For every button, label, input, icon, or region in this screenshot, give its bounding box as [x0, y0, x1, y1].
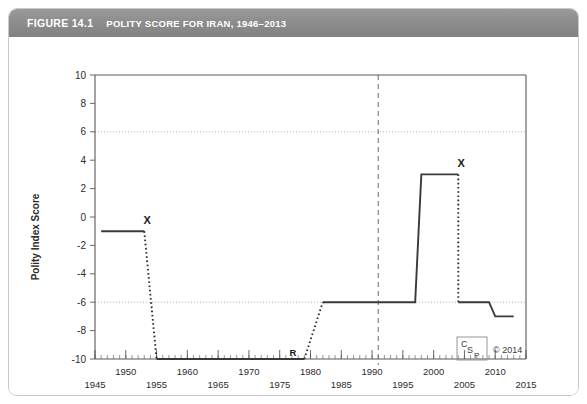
x-tick-label-2015: 2015 [515, 379, 536, 390]
x-tick-label-2010: 2010 [485, 366, 506, 377]
series-segment-4 [323, 174, 458, 302]
x-axis-tick-labels: 1945195019551960196519701975198019851990… [84, 366, 536, 390]
chart-axes [95, 75, 526, 359]
y-tick-label-2: 2 [80, 183, 86, 194]
y-tick-label-0: 0 [80, 212, 86, 223]
series-segment-1 [144, 231, 156, 359]
x-tick-label-2005: 2005 [454, 379, 475, 390]
y-tick-label-4: 4 [80, 155, 86, 166]
y-axis-title: Polity Index Score [30, 193, 41, 280]
figure-header-text: FIGURE 14.1 POLITY SCORE FOR IRAN, 1946–… [27, 9, 286, 37]
x-tick-label-1980: 1980 [300, 366, 321, 377]
figure-card: FIGURE 14.1 POLITY SCORE FOR IRAN, 1946–… [8, 8, 579, 396]
copyright-text: © 2014 [493, 345, 522, 355]
x-tick-label-1965: 1965 [208, 379, 229, 390]
polity-score-line-chart: 1086420-2-4-6-8-10 194519501955196019651… [9, 37, 579, 396]
csp-credit: C S P © 2014 [457, 337, 522, 360]
figure-header-bar: FIGURE 14.1 POLITY SCORE FOR IRAN, 1946–… [9, 9, 579, 37]
x-tick-label-1945: 1945 [84, 379, 105, 390]
y-tick-label--10: -10 [72, 354, 87, 365]
x-tick-label-1950: 1950 [115, 366, 136, 377]
x-tick-label-1985: 1985 [331, 379, 352, 390]
y-tick-label--2: -2 [77, 240, 86, 251]
x-tick-label-1990: 1990 [362, 366, 383, 377]
annotation-x-1953: X [144, 214, 152, 226]
chart-plot-area: 1086420-2-4-6-8-10 194519501955196019651… [9, 37, 579, 396]
series-segment-3 [304, 302, 322, 359]
y-tick-label-8: 8 [80, 98, 86, 109]
polity-series-line [101, 174, 514, 359]
y-tick-label--8: -8 [77, 325, 86, 336]
axis-major-ticks [90, 75, 526, 359]
annotation-r-1979: R [289, 347, 296, 358]
figure-number: FIGURE 14.1 [27, 17, 93, 29]
y-axis-tick-labels: 1086420-2-4-6-8-10 [72, 70, 87, 365]
csp-logo-p: P [474, 351, 479, 360]
series-segment-6 [458, 302, 513, 316]
x-tick-label-1975: 1975 [269, 379, 290, 390]
y-tick-label-6: 6 [80, 126, 86, 137]
figure-title: POLITY SCORE FOR IRAN, 1946–2013 [106, 18, 286, 29]
x-tick-label-2000: 2000 [423, 366, 444, 377]
x-tick-label-1970: 1970 [238, 366, 259, 377]
csp-logo-s: S [467, 345, 473, 355]
y-tick-label-10: 10 [75, 70, 87, 81]
x-tick-label-1960: 1960 [177, 366, 198, 377]
y-tick-label--4: -4 [77, 268, 86, 279]
y-tick-label--6: -6 [77, 297, 86, 308]
x-tick-label-1995: 1995 [392, 379, 413, 390]
annotation-x-2004: X [458, 157, 466, 169]
x-tick-label-1955: 1955 [146, 379, 167, 390]
